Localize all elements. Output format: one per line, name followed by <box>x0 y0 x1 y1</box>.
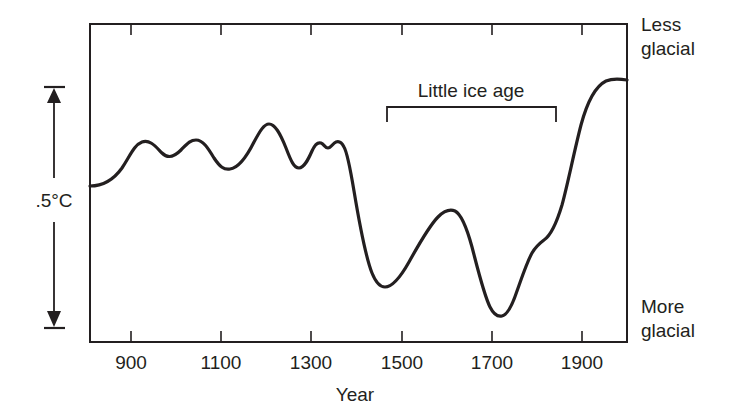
plot-frame <box>90 24 627 342</box>
x-axis-title: Year <box>336 384 374 406</box>
x-tick-label-900: 900 <box>115 352 147 374</box>
x-tick-label-1100: 1100 <box>201 352 242 374</box>
glacial-temperature-chart: 900 1100 1300 1500 1700 1900 Year Less g… <box>0 0 734 419</box>
x-tick-label-1900: 1900 <box>561 352 603 374</box>
little-ice-age-bracket <box>387 107 556 121</box>
x-axis-ticks-bottom <box>131 331 582 342</box>
more-glacial-label-line1: More <box>641 296 684 318</box>
x-tick-label-1300: 1300 <box>290 352 332 374</box>
little-ice-age-label: Little ice age <box>418 80 525 102</box>
x-tick-label-1700: 1700 <box>471 352 513 374</box>
scale-bar-label: .5°C <box>35 190 72 212</box>
x-axis-ticks-top <box>131 24 582 35</box>
chart-canvas <box>0 0 734 419</box>
scalebar-down-arrow-icon <box>47 311 61 327</box>
x-tick-label-1500: 1500 <box>381 352 423 374</box>
bracket-path <box>387 107 556 121</box>
less-glacial-label-line1: Less <box>641 14 681 36</box>
less-glacial-label-line2: glacial <box>641 38 695 60</box>
more-glacial-label-line2: glacial <box>641 320 695 342</box>
glacial-index-curve <box>90 79 627 316</box>
